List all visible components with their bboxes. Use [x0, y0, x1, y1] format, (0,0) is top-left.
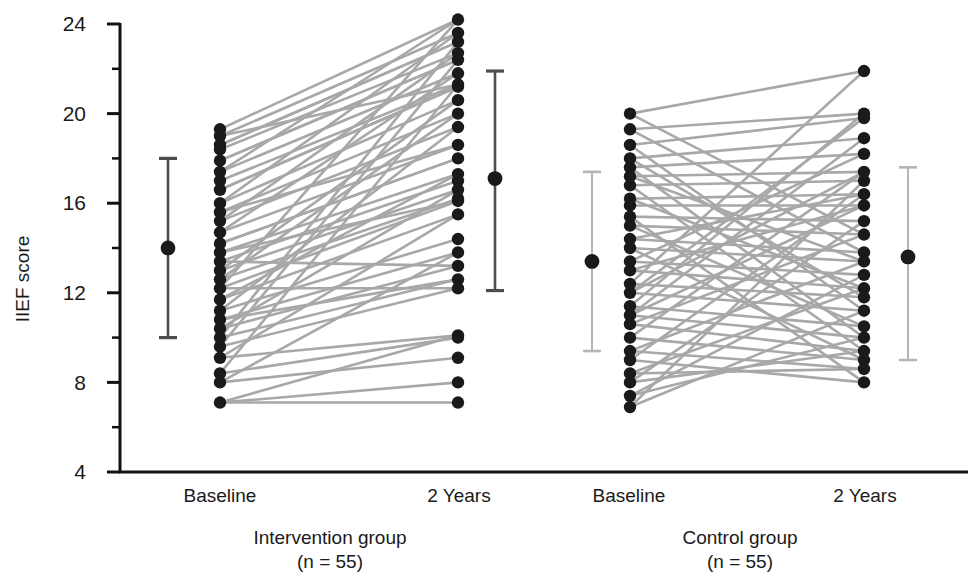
- y-axis-label: IIEF score: [12, 204, 34, 354]
- group-caption-intervention: Intervention group (n = 55): [180, 526, 480, 574]
- y-tick-label-4: 4: [46, 460, 86, 484]
- connector-lines-layer: [220, 20, 864, 408]
- group-name-control: Control group: [590, 526, 890, 550]
- group-n-control: (n = 55): [590, 550, 890, 574]
- x-tick-label-control-baseline: Baseline: [539, 485, 719, 507]
- y-tick-label-8: 8: [46, 371, 86, 395]
- y-tick-label-12: 12: [46, 281, 86, 305]
- y-tick-label-20: 20: [46, 102, 86, 126]
- y-tick-label-24: 24: [46, 12, 86, 36]
- figure: IIEF score 24 20 16 12 8 4 Baseline 2 Ye…: [0, 0, 972, 583]
- x-tick-label-control-2years: 2 Years: [775, 485, 955, 507]
- group-caption-control: Control group (n = 55): [590, 526, 890, 574]
- y-tick-label-16: 16: [46, 191, 86, 215]
- group-n-intervention: (n = 55): [180, 550, 480, 574]
- x-tick-label-intervention-baseline: Baseline: [130, 485, 310, 507]
- group-name-intervention: Intervention group: [180, 526, 480, 550]
- data-points-layer: [214, 13, 870, 413]
- x-tick-label-intervention-2years: 2 Years: [369, 485, 549, 507]
